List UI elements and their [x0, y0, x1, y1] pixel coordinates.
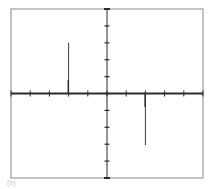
panel-label: (b) [7, 179, 16, 186]
oscilloscope-chart [0, 0, 210, 189]
